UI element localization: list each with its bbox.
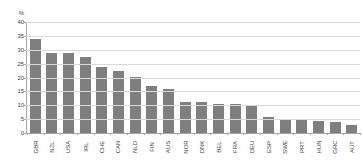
x-axis-label-slot: NOR [177,135,194,163]
x-axis-label-slot: AUS [160,135,177,163]
y-axis-tick-mark [24,22,26,23]
x-axis-tick-label: DNK [199,141,205,154]
x-axis-tick-label: PRT [299,141,305,153]
x-axis-labels: GBRNZLUSAIRLCHECANNLDFINAUSNORDNKBELFRAD… [27,135,360,163]
bar[interactable] [146,86,157,133]
x-axis-tick-mark [260,133,261,135]
x-axis-tick-mark [327,133,328,135]
x-axis-label-slot: NLD [127,135,144,163]
bar[interactable] [196,102,207,133]
gridline [26,119,360,120]
y-axis: 0510152025303540 [0,0,24,163]
x-axis-label-slot: DEU [244,135,261,163]
bar[interactable] [330,122,341,133]
y-axis-tick-mark [24,119,26,120]
gridline [26,22,360,23]
x-axis-tick-mark [360,133,361,135]
x-axis-tick-mark [77,133,78,135]
x-axis-tick-mark [210,133,211,135]
x-axis-tick-mark [293,133,294,135]
x-axis-label-slot: GRC [327,135,344,163]
y-axis-tick-label: 15 [2,88,24,94]
bar[interactable] [313,121,324,133]
x-axis-tick-label: CHE [99,141,105,154]
x-axis-tick-label: DEU [249,141,255,154]
x-axis-tick-mark [227,133,228,135]
x-axis-tick-mark [160,133,161,135]
x-axis-tick-label: BEL [216,141,222,152]
bar[interactable] [180,102,191,133]
x-axis-tick-label: FRA [232,141,238,153]
y-axis-tick-mark [24,78,26,79]
x-axis-tick-mark [144,133,145,135]
x-axis-tick-mark [310,133,311,135]
x-axis-label-slot: FRA [227,135,244,163]
y-axis-tick-label: 40 [2,19,24,25]
y-axis-tick-label: 0 [2,130,24,136]
y-axis-tick-mark [24,105,26,106]
x-axis-tick-label: SWE [282,140,288,154]
bar[interactable] [80,57,91,133]
bar[interactable] [113,71,124,133]
x-axis-label-slot: NZL [44,135,61,163]
x-axis-label-slot: AUT [343,135,360,163]
bar[interactable] [63,53,74,133]
y-axis-tick-label: 35 [2,33,24,39]
gridline [26,64,360,65]
x-axis-label-slot: CHE [94,135,111,163]
y-axis-tick-mark [24,133,26,134]
x-axis-label-slot: HUN [310,135,327,163]
x-axis-tick-mark [27,133,28,135]
x-axis-label-slot: FIN [144,135,161,163]
x-axis-label-slot: SWE [277,135,294,163]
x-axis-label-slot: CAN [110,135,127,163]
x-axis-label-slot: IRL [77,135,94,163]
x-axis-tick-label: ESP [266,141,272,153]
x-axis-tick-label: GRC [332,140,338,153]
y-axis-tick-label: 30 [2,47,24,53]
x-axis-tick-label: NZL [49,141,55,152]
bar-chart: % 0510152025303540 GBRNZLUSAIRLCHECANNLD… [0,0,363,163]
x-axis-label-slot: BEL [210,135,227,163]
x-axis-tick-label: AUS [166,141,172,153]
x-axis-tick-mark [94,133,95,135]
x-axis-label-slot: PRT [294,135,311,163]
x-axis-label-slot: DNK [194,135,211,163]
gridline [26,78,360,79]
x-axis-tick-label: HUN [315,141,321,154]
x-axis-tick-label: GBR [32,140,38,153]
y-axis-tick-mark [24,36,26,37]
x-axis-tick-label: NLD [132,141,138,153]
gridline [26,50,360,51]
gridline [26,91,360,92]
bar[interactable] [163,89,174,133]
x-axis-label-slot: ESP [260,135,277,163]
gridline [26,105,360,106]
x-axis-tick-label: NOR [182,140,188,153]
y-axis-tick-label: 25 [2,61,24,67]
x-axis-tick-mark [243,133,244,135]
x-axis-label-slot: USA [60,135,77,163]
x-axis-tick-mark [44,133,45,135]
y-axis-tick-mark [24,91,26,92]
x-axis-tick-label: IRL [82,142,88,151]
y-axis-tick-label: 10 [2,102,24,108]
x-axis-tick-label: FIN [149,142,155,152]
x-axis-tick-mark [194,133,195,135]
x-axis-tick-mark [343,133,344,135]
x-axis-tick-label: CAN [116,141,122,154]
gridline [26,36,360,37]
x-axis-label-slot: GBR [27,135,44,163]
x-axis-tick-mark [110,133,111,135]
x-axis-tick-label: USA [66,141,72,153]
y-axis-tick-mark [24,64,26,65]
x-axis-tick-mark [177,133,178,135]
y-axis-tick-mark [24,50,26,51]
y-axis-tick-label: 20 [2,75,24,81]
bar[interactable] [46,53,57,133]
bar[interactable] [280,120,291,133]
bar[interactable] [296,120,307,133]
bar[interactable] [346,125,357,133]
x-axis-tick-mark [60,133,61,135]
x-axis-tick-mark [127,133,128,135]
